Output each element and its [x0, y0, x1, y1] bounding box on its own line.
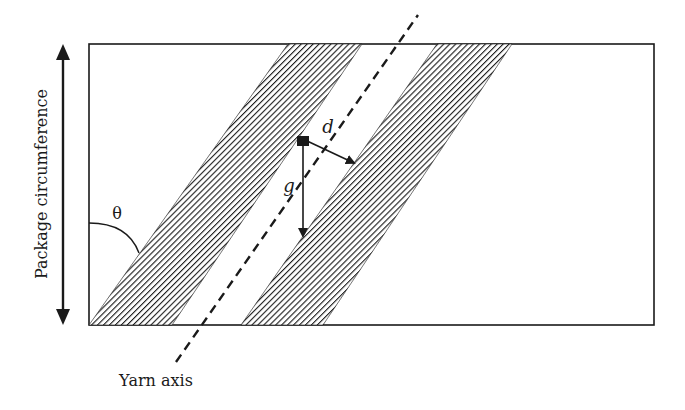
- spacing-d-arrow: [305, 140, 354, 163]
- gap-g-label: g: [283, 175, 295, 196]
- spacing-d-label: d: [322, 116, 334, 137]
- package-circumference-label: Package circumference: [32, 89, 51, 279]
- ribbon-winding-diagram: Package circumference θ d g Yarn axis: [0, 0, 685, 410]
- yarn-axis-label: Yarn axis: [118, 371, 193, 390]
- circumference-double-arrow: [56, 44, 70, 325]
- angle-theta-label: θ: [112, 204, 122, 223]
- angle-theta-arc: [89, 223, 139, 253]
